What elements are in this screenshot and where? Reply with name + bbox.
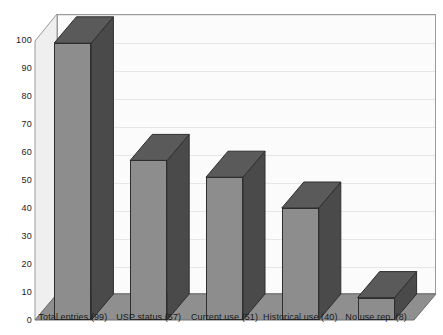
x-axis-labels: Total entries (99)USP status (57)Current… bbox=[0, 312, 443, 330]
bar-chart: 0102030405060708090100 Total entries (99… bbox=[0, 0, 443, 335]
bar bbox=[0, 0, 443, 335]
bars-layer bbox=[0, 0, 443, 335]
x-axis-tick-label: No use rep. (8) bbox=[316, 312, 436, 323]
bar-3d-faces bbox=[0, 0, 443, 335]
